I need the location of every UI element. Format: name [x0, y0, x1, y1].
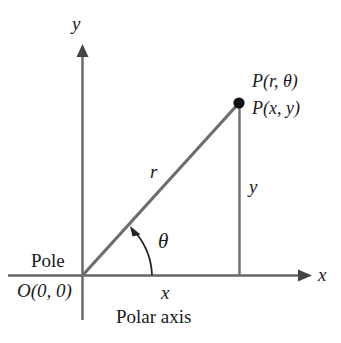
point-polar-label: P(r, θ) — [252, 72, 298, 90]
polar-coordinate-diagram: y x P(r, θ) P(x, y) r y θ Pole O(0, 0) x… — [0, 0, 341, 343]
polar-axis-caption: Polar axis — [116, 307, 191, 326]
angle-arc-arrowhead-icon — [130, 226, 141, 237]
pole-label: Pole — [31, 251, 65, 270]
angle-arc-path — [136, 233, 153, 276]
radius-label: r — [150, 162, 157, 181]
angle-label: θ — [158, 231, 168, 252]
angle-arc — [130, 226, 152, 275]
y-axis-label: y — [72, 14, 80, 33]
point-p-marker — [233, 97, 244, 108]
vertical-leg-label: y — [249, 177, 257, 196]
horizontal-leg-label: x — [161, 283, 169, 302]
y-axis — [77, 44, 89, 320]
x-axis-arrowhead-icon — [298, 270, 312, 282]
point-cartesian-label: P(x, y) — [252, 99, 300, 117]
x-axis-label: x — [318, 265, 326, 284]
y-axis-arrowhead-icon — [77, 44, 89, 57]
origin-label: O(0, 0) — [17, 281, 72, 300]
